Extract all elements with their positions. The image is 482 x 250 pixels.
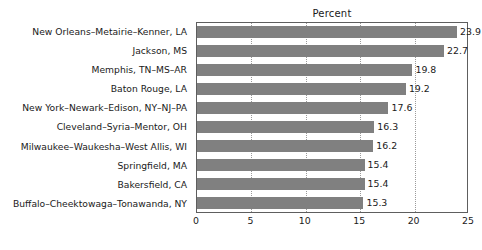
bar-value-label: 16.2 [373, 141, 397, 150]
category-label: Baton Rouge, LA [0, 79, 192, 98]
category-label: New York–Newark–Edison, NY–NJ–PA [0, 98, 192, 117]
bar-chart: Percent New Orleans–Metairie–Kenner, LAJ… [0, 0, 482, 250]
bar-row: 15.3 [197, 193, 467, 212]
x-tick-label: 0 [193, 216, 199, 225]
bar-row: 19.2 [197, 80, 467, 99]
bar-value-label: 19.2 [406, 84, 430, 93]
bar[interactable] [197, 121, 374, 133]
bar-value-label: 15.3 [363, 198, 387, 207]
category-label: Buffalo–Cheektowaga–Tonawanda, NY [0, 194, 192, 213]
bar[interactable] [197, 197, 363, 209]
x-tick-label: 5 [247, 216, 253, 225]
chart-title: Percent [196, 8, 468, 19]
x-tick-label: 25 [462, 216, 474, 225]
x-tick-label: 15 [353, 216, 365, 225]
bars-layer: 23.922.719.819.217.616.316.215.415.415.3 [197, 23, 467, 212]
bar-row: 22.7 [197, 42, 467, 61]
category-label: Jackson, MS [0, 41, 192, 60]
bar[interactable] [197, 159, 365, 171]
category-label: New Orleans–Metairie–Kenner, LA [0, 22, 192, 41]
bar-value-label: 16.3 [374, 122, 398, 131]
bar[interactable] [197, 26, 457, 38]
bar-row: 23.9 [197, 23, 467, 42]
category-label: Milwaukee–Waukesha–West Allis, WI [0, 137, 192, 156]
x-axis: 0510152025 [196, 214, 468, 236]
bar[interactable] [197, 140, 373, 152]
bar[interactable] [197, 102, 388, 114]
plot-area: 23.922.719.819.217.616.316.215.415.415.3 [196, 22, 468, 213]
bar-value-label: 15.4 [365, 179, 389, 188]
category-label: Cleveland–Syria–Mentor, OH [0, 117, 192, 136]
bar-row: 15.4 [197, 155, 467, 174]
bar[interactable] [197, 178, 365, 190]
bar-row: 19.8 [197, 61, 467, 80]
category-label: Springfield, MA [0, 156, 192, 175]
category-label: Bakersfield, CA [0, 175, 192, 194]
bar[interactable] [197, 64, 412, 76]
bar-value-label: 22.7 [444, 47, 468, 56]
bar-value-label: 17.6 [388, 103, 412, 112]
bar[interactable] [197, 83, 406, 95]
bar[interactable] [197, 45, 444, 57]
category-label: Memphis, TN–MS–AR [0, 60, 192, 79]
x-tick-label: 20 [408, 216, 420, 225]
category-axis: New Orleans–Metairie–Kenner, LAJackson, … [0, 22, 192, 213]
x-tick-label: 10 [299, 216, 311, 225]
bar-value-label: 15.4 [365, 160, 389, 169]
bar-row: 16.3 [197, 118, 467, 137]
bar-row: 15.4 [197, 174, 467, 193]
bar-value-label: 19.8 [412, 66, 436, 75]
bar-row: 17.6 [197, 99, 467, 118]
bar-value-label: 23.9 [457, 28, 481, 37]
bar-row: 16.2 [197, 136, 467, 155]
